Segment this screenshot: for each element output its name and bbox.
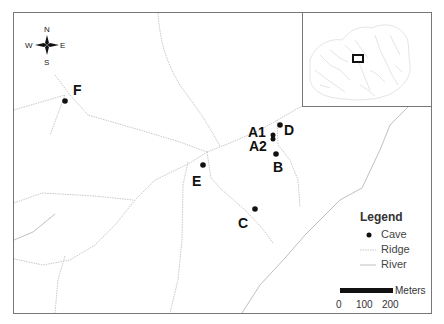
scale-tick-0: 0 <box>336 299 342 310</box>
cave-point-E[interactable] <box>200 162 206 168</box>
inset-extent-box <box>353 55 363 62</box>
compass-south: S <box>44 58 49 67</box>
legend-cave-label: Cave <box>381 228 407 240</box>
cave-point-B[interactable] <box>273 151 279 157</box>
cave-point-A2[interactable] <box>271 137 276 142</box>
cave-label-A2: A2 <box>249 138 267 154</box>
compass-east: E <box>60 41 65 50</box>
compass-west: W <box>25 41 33 50</box>
scale-unit: Meters <box>395 285 426 296</box>
legend-ridge-label: Ridge <box>381 243 410 255</box>
legend-river-label: River <box>381 258 407 270</box>
cave-location-map: N S E W F E C A1 A2 D B Legend Cave Ridg… <box>0 0 444 324</box>
legend-title: Legend <box>360 210 403 224</box>
cave-point-D[interactable] <box>277 122 283 128</box>
cave-point-C[interactable] <box>252 206 258 212</box>
compass-north: N <box>44 25 50 34</box>
cave-label-D: D <box>284 122 294 138</box>
cave-point-F[interactable] <box>62 98 68 104</box>
scale-tick-100: 100 <box>356 299 373 310</box>
cave-label-C: C <box>238 215 248 231</box>
inset-locator-map <box>303 13 432 107</box>
cave-label-E: E <box>192 173 201 189</box>
scale-tick-200: 200 <box>382 299 399 310</box>
cave-label-B: B <box>273 159 283 175</box>
legend-cave-symbol <box>367 233 372 238</box>
cave-label-F: F <box>73 82 82 98</box>
